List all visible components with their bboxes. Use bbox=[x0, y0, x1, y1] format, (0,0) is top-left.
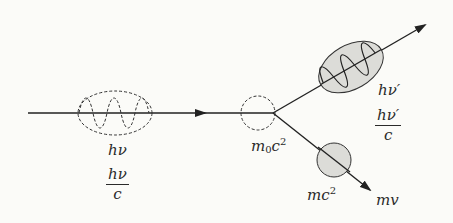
incident-photon-momentum-label: hν c bbox=[106, 167, 129, 202]
incident-photon-momentum-numerator: hν bbox=[106, 167, 129, 185]
recoil-electron-circle bbox=[317, 143, 351, 177]
label-sup-2: 2 bbox=[280, 136, 286, 147]
rest-electron-energy-label: m0c2 bbox=[251, 137, 286, 155]
label-mc: mc bbox=[307, 186, 330, 204]
scattered-photon-momentum-denominator: c bbox=[375, 126, 401, 143]
scattered-photon-momentum-numerator: hν′ bbox=[375, 108, 401, 126]
incident-photon-momentum-denominator: c bbox=[106, 185, 129, 202]
recoil-electron-energy-label: mc2 bbox=[307, 186, 336, 203]
label-c: c bbox=[272, 137, 280, 155]
compton-scattering-diagram: hν hν c m0c2 hν′ hν′ c mc2 mv bbox=[0, 0, 453, 223]
recoil-electron-momentum-label: mv bbox=[376, 193, 399, 208]
label-m: m bbox=[251, 137, 265, 155]
incident-photon-energy-label: hν bbox=[108, 143, 127, 158]
scattered-photon-energy-label: hν′ bbox=[378, 83, 400, 98]
label-sup-2: 2 bbox=[330, 185, 336, 196]
scattered-photon-momentum-label: hν′ c bbox=[375, 108, 401, 143]
